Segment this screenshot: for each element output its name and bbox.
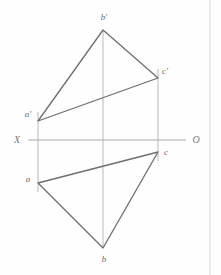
diagram-page: a' b' c' a b c X O xyxy=(0,0,221,275)
vertex-label-a: a xyxy=(26,174,31,184)
horizontal-triangle xyxy=(38,152,158,248)
axis-label-o: O xyxy=(192,134,199,145)
vertex-label-b-prime: b' xyxy=(101,12,109,22)
frontal-triangle xyxy=(38,30,158,121)
vertex-label-b: b xyxy=(102,254,107,264)
projection-drawing: a' b' c' a b c X O xyxy=(0,0,221,275)
vertex-label-c-prime: c' xyxy=(162,66,169,76)
vertex-label-a-prime: a' xyxy=(25,109,33,119)
axis-label-x: X xyxy=(13,134,21,145)
vertex-label-c: c xyxy=(164,147,168,157)
